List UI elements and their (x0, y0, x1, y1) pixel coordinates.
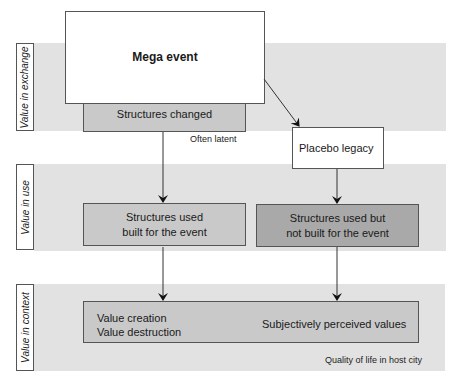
arrow-mega-to-placebo (264, 79, 299, 126)
arrows (0, 0, 457, 385)
